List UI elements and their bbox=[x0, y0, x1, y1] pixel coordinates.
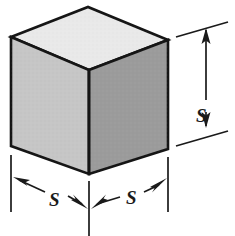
width-right-dimension-label: S bbox=[126, 188, 137, 207]
height-extension-line-top bbox=[176, 22, 228, 37]
height-dimension bbox=[176, 22, 228, 146]
height-extension-line-bottom bbox=[176, 131, 228, 146]
cube-body bbox=[11, 7, 168, 174]
cube-figure: S S S bbox=[0, 0, 235, 236]
arrow-right-icon bbox=[71, 195, 88, 210]
width-left-dimension-label: S bbox=[49, 190, 60, 209]
height-dimension-label: S bbox=[196, 106, 207, 125]
arrow-right-icon-right-dim bbox=[150, 178, 167, 193]
